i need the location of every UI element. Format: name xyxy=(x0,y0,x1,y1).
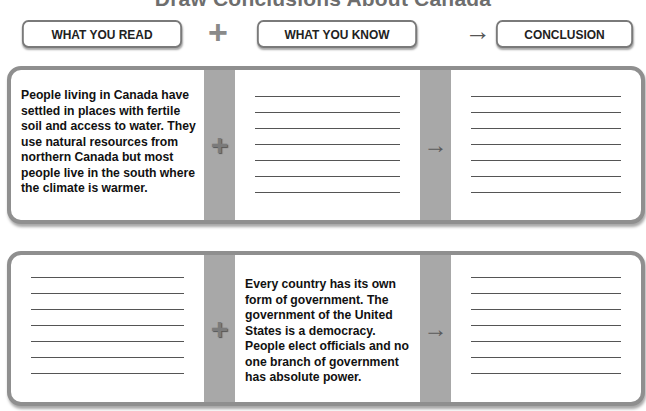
row-2-read-cell[interactable] xyxy=(11,255,204,402)
row-1-panel: People living in Canada have settled in … xyxy=(7,66,645,224)
row-1-read-cell: People living in Canada have settled in … xyxy=(11,70,204,220)
page-title: Draw Conclusions About Canada xyxy=(0,0,646,11)
row-1-know-cell[interactable] xyxy=(235,70,420,220)
row-1-conclusion-cell[interactable] xyxy=(451,70,641,220)
arrow-right-icon: → xyxy=(424,133,448,157)
plus-icon: + xyxy=(208,13,228,52)
header-conclusion: CONCLUSION xyxy=(496,20,633,48)
row-1-conclusion-lines[interactable] xyxy=(471,96,621,208)
row-1-know-lines[interactable] xyxy=(255,96,400,208)
header-what-you-read: WHAT YOU READ xyxy=(22,20,182,48)
plus-icon: + xyxy=(211,314,229,344)
arrow-right-icon: → xyxy=(465,16,491,47)
row-2-know-cell: Every country has its own form of govern… xyxy=(235,255,420,402)
row-2-conclusion-lines[interactable] xyxy=(471,277,621,389)
row-2-know-text: Every country has its own form of govern… xyxy=(235,255,420,386)
header-what-you-know: WHAT YOU KNOW xyxy=(257,20,417,48)
row-1-plus-band: + xyxy=(204,70,235,220)
row-1-arrow-band: → xyxy=(420,70,451,220)
row-2-read-lines[interactable] xyxy=(31,277,184,389)
row-2-plus-band: + xyxy=(204,255,235,402)
row-2-conclusion-cell[interactable] xyxy=(451,255,641,402)
plus-icon: + xyxy=(211,130,229,160)
arrow-right-icon: → xyxy=(424,317,448,341)
row-2-arrow-band: → xyxy=(420,255,451,402)
row-1-read-text: People living in Canada have settled in … xyxy=(11,70,204,197)
row-2-panel: + Every country has its own form of gove… xyxy=(7,251,645,406)
